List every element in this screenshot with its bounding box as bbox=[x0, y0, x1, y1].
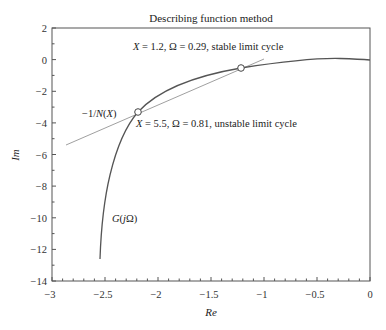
x-tick-label: −2.5 bbox=[93, 289, 112, 300]
y-tick-label: −4 bbox=[36, 118, 48, 129]
chart-title: Describing function method bbox=[149, 12, 273, 24]
x-tick-labels: −3 −2.5 −2 −1.5 −1 −0.5 0 bbox=[44, 289, 372, 300]
x-tick-label: 0 bbox=[367, 289, 372, 300]
y-tick-label: −2 bbox=[36, 86, 47, 97]
x-tick-label: −0.5 bbox=[305, 289, 324, 300]
y-tick-label: −12 bbox=[31, 244, 47, 255]
x-tick-label: −3 bbox=[44, 289, 55, 300]
inverse-N-close: ) bbox=[113, 108, 117, 120]
unstable-limit-cycle-marker bbox=[135, 109, 142, 116]
stable-annotation: X = 1.2, Ω = 0.29, stable limit cycle bbox=[132, 41, 284, 52]
x-ticks bbox=[52, 277, 370, 281]
y-tick-label: −8 bbox=[36, 181, 47, 192]
stable-annotation-text: = 1.2, Ω = 0.29, stable limit cycle bbox=[139, 41, 283, 52]
x-axis-label: Re bbox=[204, 306, 217, 318]
inverse-N-prefix: −1/ bbox=[82, 108, 96, 119]
y-axis-label: Im bbox=[9, 149, 21, 162]
G-label-rest: Ω) bbox=[126, 213, 138, 225]
nyquist-curve-G bbox=[100, 58, 370, 259]
inverse-describing-function-line bbox=[66, 59, 264, 145]
y-tick-label: 0 bbox=[42, 55, 47, 66]
x-tick-label: −1 bbox=[256, 289, 267, 300]
unstable-annotation: X = 5.5, Ω = 0.81, unstable limit cycle bbox=[135, 118, 297, 129]
plot-frame bbox=[52, 28, 370, 281]
x-tick-label: −2 bbox=[150, 289, 161, 300]
y-tick-labels: 2 0 −2 −4 −6 −8 −10 −12 −14 bbox=[31, 23, 48, 287]
chart-svg: Describing function method bbox=[0, 0, 386, 330]
inverse-N-label: −1/N(X) bbox=[82, 108, 117, 120]
unstable-annotation-text: = 5.5, Ω = 0.81, unstable limit cycle bbox=[142, 118, 297, 129]
y-ticks bbox=[52, 28, 56, 281]
y-tick-label: −14 bbox=[31, 276, 48, 287]
y-tick-label: −6 bbox=[36, 150, 47, 161]
G-label: G(jΩ) bbox=[112, 213, 138, 225]
stable-limit-cycle-marker bbox=[238, 65, 245, 72]
y-tick-label: −10 bbox=[31, 213, 47, 224]
x-tick-label: −1.5 bbox=[199, 289, 218, 300]
y-tick-label: 2 bbox=[42, 23, 47, 34]
